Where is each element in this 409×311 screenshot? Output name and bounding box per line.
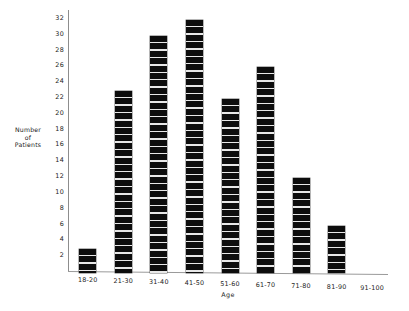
bar bbox=[186, 20, 203, 273]
bar bbox=[293, 178, 310, 273]
bar bbox=[150, 36, 167, 273]
y-axis-tick-label: 14 bbox=[55, 156, 64, 164]
y-axis-tick-label: 30 bbox=[55, 30, 64, 38]
y-axis-tick-label: 6 bbox=[60, 220, 64, 228]
y-axis-tick-label: 8 bbox=[60, 204, 64, 212]
bar bbox=[222, 99, 239, 273]
y-axis-title: Number of Patients bbox=[4, 126, 52, 149]
x-axis-tick-label: 31-40 bbox=[149, 278, 169, 286]
y-axis-tick-label: 4 bbox=[60, 235, 64, 243]
x-axis-title: Age bbox=[68, 291, 388, 299]
bar bbox=[257, 67, 274, 273]
x-axis-tick-label: 61-70 bbox=[256, 281, 276, 289]
y-axis-tick-label: 20 bbox=[55, 109, 64, 117]
y-axis-tick-label: 32 bbox=[55, 14, 64, 22]
x-axis-tick-label: 41-50 bbox=[185, 279, 205, 287]
x-axis-tick-label: 51-60 bbox=[220, 280, 240, 288]
x-axis-tick-label: 18-20 bbox=[78, 276, 98, 284]
y-axis-tick-label: 10 bbox=[55, 188, 64, 196]
y-axis-tick-label: 26 bbox=[55, 61, 64, 69]
y-axis-line bbox=[68, 10, 69, 272]
y-axis-tick-label: 12 bbox=[55, 172, 64, 180]
y-axis-title-line-1: Number bbox=[4, 126, 52, 134]
histogram-figure: Number of Patients 246810121416182022242… bbox=[0, 0, 409, 311]
y-axis-tick-label: 16 bbox=[55, 140, 64, 148]
y-axis-tick-label: 18 bbox=[55, 125, 64, 133]
bar bbox=[328, 226, 345, 273]
y-axis-tick-label: 24 bbox=[55, 77, 64, 85]
x-axis-tick-label: 21-30 bbox=[114, 277, 134, 285]
y-axis-tick-label: 28 bbox=[55, 46, 64, 54]
x-axis-tick-label: 81-90 bbox=[327, 283, 347, 291]
bar bbox=[79, 249, 96, 273]
plot-area: 2468101214161820222426283032 18-2021-303… bbox=[68, 10, 388, 273]
y-axis-tick-label: 22 bbox=[55, 93, 64, 101]
y-axis-title-line-2: of bbox=[4, 134, 52, 142]
bar bbox=[115, 91, 132, 273]
x-axis-tick-label: 71-80 bbox=[291, 282, 311, 290]
y-axis-title-line-3: Patients bbox=[4, 141, 52, 149]
y-axis-tick-label: 2 bbox=[60, 251, 64, 259]
